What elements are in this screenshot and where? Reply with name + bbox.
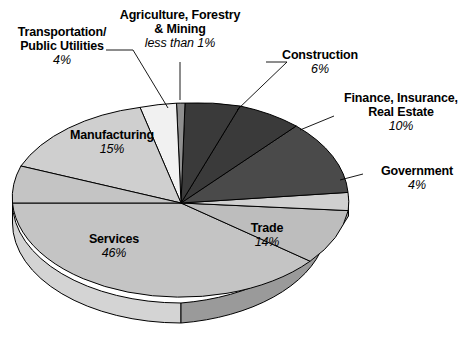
label-services-value: 46%: [68, 246, 160, 260]
label-government-line1: Government: [368, 164, 466, 178]
label-services-line1: Services: [68, 232, 160, 246]
label-government: Government 4%: [368, 164, 466, 192]
label-finance-line2: Real Estate: [336, 105, 466, 119]
leader-line-finance: [300, 116, 334, 130]
label-trade-value: 14%: [232, 235, 302, 249]
label-agriculture-line2: & Mining: [112, 22, 248, 36]
label-finance-value: 10%: [336, 119, 466, 133]
label-finance-line1: Finance, Insurance,: [336, 91, 466, 105]
label-transportation-line2: Public Utilities: [2, 39, 122, 53]
label-finance: Finance, Insurance, Real Estate 10%: [336, 91, 466, 133]
label-government-value: 4%: [368, 178, 466, 192]
label-construction-value: 6%: [272, 62, 368, 76]
label-transportation-line1: Transportation/: [2, 25, 122, 39]
label-agriculture-value: less than 1%: [112, 36, 248, 50]
label-transportation-value: 4%: [2, 53, 122, 67]
label-services: Services 46%: [68, 232, 160, 260]
label-agriculture-line1: Agriculture, Forestry: [112, 8, 248, 22]
label-trade: Trade 14%: [232, 221, 302, 249]
label-transportation: Transportation/ Public Utilities 4%: [2, 25, 122, 67]
label-construction-line1: Construction: [272, 48, 368, 62]
label-manufacturing-line1: Manufacturing: [57, 128, 167, 142]
label-manufacturing-value: 15%: [57, 142, 167, 156]
label-agriculture: Agriculture, Forestry & Mining less than…: [112, 8, 248, 50]
pie-chart: Transportation/ Public Utilities 4% Agri…: [0, 0, 468, 344]
label-trade-line1: Trade: [232, 221, 302, 235]
label-construction: Construction 6%: [272, 48, 368, 76]
label-manufacturing: Manufacturing 15%: [57, 128, 167, 156]
